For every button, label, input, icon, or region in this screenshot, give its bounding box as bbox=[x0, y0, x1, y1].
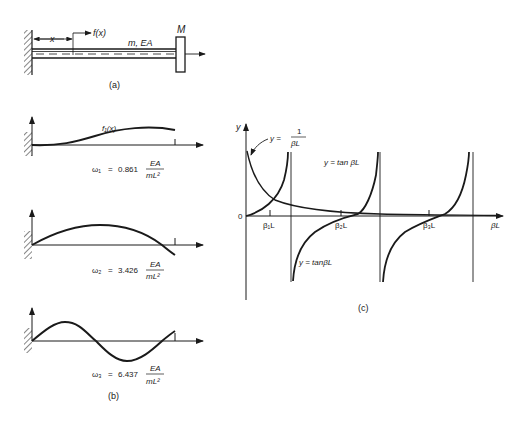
svg-text:=: = bbox=[108, 370, 113, 379]
root-2-label: β₂L bbox=[335, 221, 348, 230]
omega2-value: 3.426 bbox=[118, 266, 139, 275]
svg-text:=: = bbox=[108, 165, 113, 174]
svg-text:EA: EA bbox=[150, 159, 161, 168]
hyperbola-pointer bbox=[251, 139, 268, 155]
fixed-wall-mode3 bbox=[24, 328, 32, 353]
svg-text:EA: EA bbox=[150, 260, 161, 269]
mode-3-plot: ω₃ = 6.437 EA mL² (b) bbox=[24, 308, 203, 401]
svg-text:mL²: mL² bbox=[146, 377, 160, 386]
figure-b-caption: (b) bbox=[108, 391, 119, 401]
mode-2-plot: ω₂ = 3.426 EA mL² bbox=[24, 210, 203, 281]
mass-label: M bbox=[177, 24, 186, 35]
figure-c-caption: (c) bbox=[358, 303, 369, 313]
svg-text:mL²: mL² bbox=[146, 171, 160, 180]
transcendental-equation-plot: y 0 βL y = 1 βL y = tan βL y = tanβL β₁L… bbox=[235, 122, 503, 313]
omega3-value: 6.437 bbox=[118, 370, 139, 379]
x-label: x bbox=[49, 34, 55, 44]
tan-label-upper: y = tan βL bbox=[323, 158, 359, 167]
x-axis-label: βL bbox=[490, 221, 500, 230]
tan-label-lower: y = tanβL bbox=[298, 258, 332, 267]
bar-properties-label: m, EA bbox=[128, 38, 153, 48]
hyperbola-label-den: βL bbox=[290, 139, 300, 148]
fixed-wall-mode1 bbox=[24, 132, 32, 156]
figure-a-bar-schematic: x f(x) m, EA M (a) bbox=[24, 24, 205, 90]
y-axis-label: y bbox=[235, 122, 241, 132]
svg-text:=: = bbox=[108, 266, 113, 275]
tan-branch-1 bbox=[246, 152, 288, 216]
svg-text:mL²: mL² bbox=[146, 272, 160, 281]
root-3-label: β₃L bbox=[423, 221, 436, 230]
mode-1-plot: f₁(x) ω₁ = 0.861 EA mL² bbox=[24, 117, 203, 180]
omega1-symbol: ω₁ bbox=[92, 165, 101, 174]
mode-shape-2 bbox=[32, 225, 175, 255]
origin-label: 0 bbox=[238, 212, 243, 221]
tan-branch-3 bbox=[383, 152, 469, 282]
hyperbola-label-lhs: y = bbox=[269, 134, 281, 143]
fixed-wall-a bbox=[24, 30, 32, 75]
omega1-value: 0.861 bbox=[118, 165, 139, 174]
svg-text:EA: EA bbox=[150, 364, 161, 373]
figure-a-caption: (a) bbox=[109, 80, 120, 90]
mode1-curve-label: f₁(x) bbox=[102, 124, 116, 133]
force-label: f(x) bbox=[93, 28, 106, 38]
hyperbola-label-num: 1 bbox=[297, 127, 302, 136]
root-1-label: β₁L bbox=[263, 221, 275, 230]
end-mass bbox=[176, 37, 185, 72]
omega2-symbol: ω₂ bbox=[92, 266, 101, 275]
omega3-symbol: ω₃ bbox=[92, 370, 102, 379]
fixed-wall-mode2 bbox=[24, 231, 32, 259]
diagram-canvas: x f(x) m, EA M (a) f₁(x) ω₁ = 0.861 EA m… bbox=[0, 0, 521, 427]
